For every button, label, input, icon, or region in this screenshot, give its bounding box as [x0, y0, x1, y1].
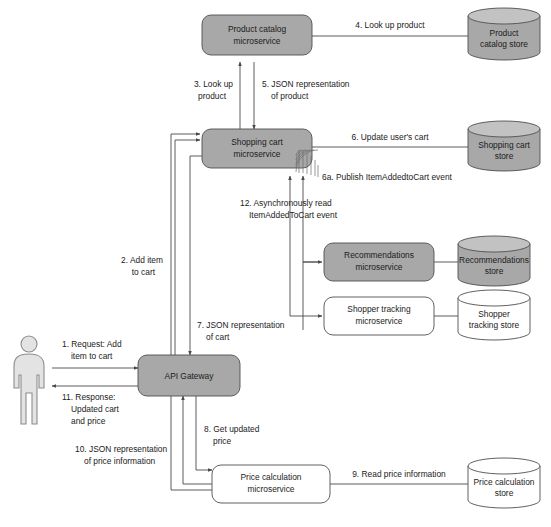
svg-text:to cart: to cart: [132, 267, 156, 277]
node-recommendations-store[interactable]: Recommendations store: [458, 236, 530, 286]
svg-text:of price information: of price information: [84, 456, 156, 466]
diagram-canvas: Product catalog microservice Product cat…: [0, 0, 551, 527]
price-calculation-store-label-2: store: [495, 488, 514, 498]
shopper-actor-icon: [14, 336, 44, 424]
svg-text:of product: of product: [271, 91, 309, 101]
edge-12-label: 12. Asynchronously read ItemAddedToCart …: [240, 198, 338, 220]
product-catalog-microservice-label-2: microservice: [234, 36, 281, 46]
edge-price-to-cart-rail: [171, 134, 212, 490]
edge-11-label: 11. Response: Updated cart and price: [62, 392, 120, 426]
shopper-tracking-store-label-2: tracking store: [469, 320, 520, 330]
edge-6a-label: 6a. Publish ItemAddedtoCart event: [322, 172, 453, 182]
svg-text:of cart: of cart: [206, 332, 230, 342]
svg-text:and price: and price: [71, 416, 106, 426]
node-price-calculation-store[interactable]: Price calculation store: [468, 458, 540, 508]
svg-text:price: price: [213, 436, 231, 446]
svg-text:ItemAddedToCart event: ItemAddedToCart event: [249, 210, 338, 220]
node-shopper-tracking-store[interactable]: Shopper tracking store: [458, 290, 530, 340]
node-price-calculation-microservice[interactable]: Price calculation microservice: [212, 465, 330, 503]
api-gateway-label: API Gateway: [165, 371, 215, 381]
edge-5-label: 5. JSON representation of product: [262, 79, 350, 101]
svg-text:12. Asynchronously read: 12. Asynchronously read: [240, 198, 332, 208]
node-product-catalog-store[interactable]: Product catalog store: [468, 8, 540, 60]
shopper-tracking-store-label-1: Shopper: [478, 309, 510, 319]
svg-text:11. Response:: 11. Response:: [62, 392, 115, 402]
architecture-diagram: Product catalog microservice Product cat…: [0, 0, 551, 527]
recommendations-microservice-label-1: Recommendations: [344, 250, 414, 260]
edge-2-label: 2. Add item to cart: [121, 255, 163, 277]
recommendations-store-label-1: Recommendations: [459, 255, 529, 265]
node-shopping-cart-microservice[interactable]: Shopping cart microservice: [202, 129, 312, 168]
svg-text:5. JSON representation: 5. JSON representation: [262, 79, 350, 89]
product-catalog-store-label-2: catalog store: [480, 39, 528, 49]
edge-9-label: 9. Read price information: [352, 469, 446, 479]
svg-text:10. JSON representation: 10. JSON representation: [75, 444, 168, 454]
edge-2-line: [162, 140, 200, 361]
node-shopper-tracking-microservice[interactable]: Shopper tracking microservice: [324, 297, 434, 335]
price-calculation-microservice-label-1: Price calculation: [241, 472, 302, 482]
edge-10-line: [183, 396, 212, 484]
recommendations-microservice-label-2: microservice: [356, 262, 403, 272]
recommendations-store-label-2: store: [485, 266, 504, 276]
node-product-catalog-microservice[interactable]: Product catalog microservice: [202, 15, 312, 55]
node-shopping-cart-store[interactable]: Shopping cart store: [468, 121, 540, 171]
shopper-tracking-microservice-label-1: Shopper tracking: [347, 304, 411, 314]
svg-text:3. Look up: 3. Look up: [194, 79, 233, 89]
edge-3-label: 3. Look up product: [194, 79, 233, 101]
svg-text:2. Add item: 2. Add item: [121, 255, 163, 265]
broadcast-icon: [296, 150, 318, 177]
product-catalog-microservice-label-1: Product catalog: [228, 24, 287, 34]
edge-1-label: 1. Request: Add item to cart: [62, 339, 122, 361]
svg-text:product: product: [198, 91, 227, 101]
edge-7-label: 7. JSON representation of cart: [197, 320, 285, 342]
svg-text:item to cart: item to cart: [71, 351, 113, 361]
shopping-cart-microservice-label-1: Shopping cart: [231, 137, 283, 147]
edge-6-label: 6. Update user's cart: [351, 132, 429, 142]
svg-text:8. Get updated: 8. Get updated: [204, 424, 260, 434]
price-calculation-microservice-label-2: microservice: [248, 484, 295, 494]
shopping-cart-store-label-2: store: [495, 151, 514, 161]
edge-8-label: 8. Get updated price: [204, 424, 260, 446]
svg-text:Updated cart: Updated cart: [71, 404, 120, 414]
shopping-cart-microservice-label-2: microservice: [234, 149, 281, 159]
svg-text:1. Request: Add: 1. Request: Add: [62, 339, 122, 349]
node-recommendations-microservice[interactable]: Recommendations microservice: [324, 243, 434, 281]
svg-text:7. JSON representation: 7. JSON representation: [197, 320, 285, 330]
price-calculation-store-label-1: Price calculation: [474, 477, 535, 487]
shopper-tracking-microservice-label-2: microservice: [356, 316, 403, 326]
edge-4-label: 4. Look up product: [355, 20, 425, 30]
shopping-cart-store-label-1: Shopping cart: [478, 140, 530, 150]
product-catalog-store-label-1: Product: [490, 28, 520, 38]
edge-10-label: 10. JSON representation of price informa…: [75, 444, 168, 466]
node-api-gateway[interactable]: API Gateway: [138, 355, 240, 396]
